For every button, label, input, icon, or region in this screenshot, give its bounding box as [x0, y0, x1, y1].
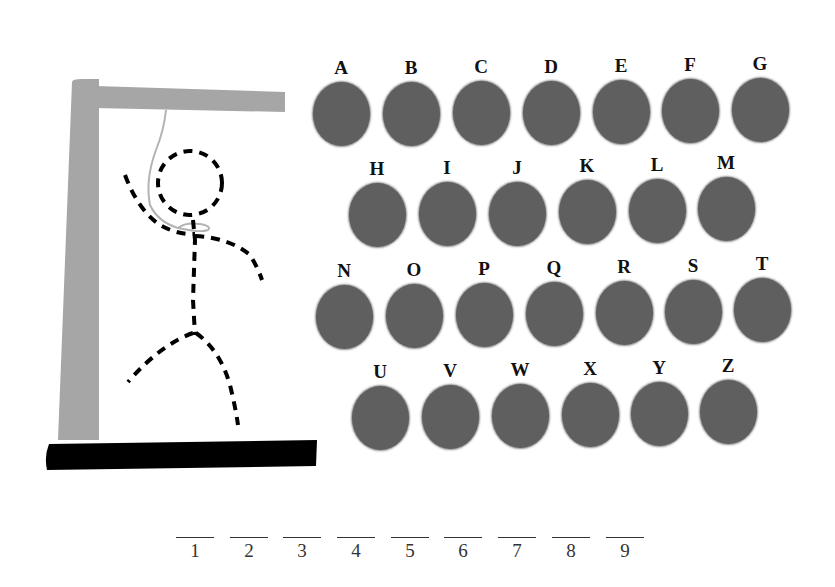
letter-label: H: [347, 159, 407, 181]
letter-label: E: [591, 56, 651, 78]
letter-disc[interactable]: [313, 82, 370, 146]
slot-number: 6: [444, 540, 482, 562]
letter-disc[interactable]: [349, 183, 406, 247]
letter-disc[interactable]: [734, 278, 791, 342]
letter-label: R: [594, 257, 654, 279]
letter-label: O: [384, 260, 444, 282]
letter-button-u[interactable]: U: [350, 362, 410, 450]
figure-body: [193, 220, 195, 335]
letter-button-z[interactable]: Z: [698, 356, 758, 444]
slot-number: 9: [606, 540, 644, 562]
figure-arm-right: [195, 236, 262, 280]
letter-label: L: [627, 155, 687, 177]
word-slot: 9: [606, 537, 644, 562]
word-slot: 4: [337, 537, 375, 562]
letter-label: N: [314, 261, 374, 283]
letter-button-o[interactable]: O: [384, 260, 444, 348]
letter-label: P: [454, 259, 514, 281]
letter-disc[interactable]: [665, 280, 722, 344]
letter-disc[interactable]: [732, 78, 789, 142]
letter-disc[interactable]: [698, 177, 755, 241]
letter-label: F: [660, 55, 720, 77]
letter-label: J: [487, 158, 547, 180]
letter-label: M: [696, 153, 756, 175]
slot-number: 8: [552, 540, 590, 562]
word-slot: 8: [552, 537, 590, 562]
letter-button-k[interactable]: K: [557, 156, 617, 244]
letter-button-j[interactable]: J: [487, 158, 547, 246]
letter-disc[interactable]: [526, 282, 583, 346]
letter-label: X: [560, 359, 620, 381]
letter-button-g[interactable]: G: [730, 54, 790, 142]
letter-disc[interactable]: [562, 383, 619, 447]
letter-disc[interactable]: [631, 382, 688, 446]
slot-underline: [444, 537, 482, 538]
letter-label: A: [311, 58, 371, 80]
letter-disc[interactable]: [456, 283, 513, 347]
letter-button-n[interactable]: N: [314, 261, 374, 349]
letter-button-r[interactable]: R: [594, 257, 654, 345]
letter-button-f[interactable]: F: [660, 55, 720, 143]
letter-disc[interactable]: [453, 81, 510, 145]
letter-label: B: [381, 58, 441, 80]
slot-number: 1: [176, 540, 214, 562]
letter-button-m[interactable]: M: [696, 153, 756, 241]
letter-disc[interactable]: [662, 79, 719, 143]
letter-label: T: [732, 254, 792, 276]
letter-disc[interactable]: [352, 386, 409, 450]
letter-button-i[interactable]: I: [417, 158, 477, 246]
letter-label: I: [417, 158, 477, 180]
letter-button-x[interactable]: X: [560, 359, 620, 447]
slot-underline: [283, 537, 321, 538]
letter-button-c[interactable]: C: [451, 57, 511, 145]
slot-number: 4: [337, 540, 375, 562]
figure-leg-right: [196, 333, 238, 425]
slot-number: 7: [498, 540, 536, 562]
slot-number: 5: [391, 540, 429, 562]
word-slot: 6: [444, 537, 482, 562]
letter-button-q[interactable]: Q: [524, 258, 584, 346]
word-slot: 7: [498, 537, 536, 562]
letter-disc[interactable]: [316, 285, 373, 349]
letter-label: G: [730, 54, 790, 76]
slot-underline: [176, 537, 214, 538]
word-slot: 5: [391, 537, 429, 562]
letter-disc[interactable]: [489, 182, 546, 246]
letter-button-h[interactable]: H: [347, 159, 407, 247]
letter-label: U: [350, 362, 410, 384]
letter-disc[interactable]: [559, 180, 616, 244]
letter-button-v[interactable]: V: [420, 361, 480, 449]
letter-button-d[interactable]: D: [521, 57, 581, 145]
slot-underline: [552, 537, 590, 538]
letter-label: D: [521, 57, 581, 79]
letter-label: S: [663, 256, 723, 278]
slot-underline: [606, 537, 644, 538]
letter-button-p[interactable]: P: [454, 259, 514, 347]
letter-disc[interactable]: [419, 182, 476, 246]
letter-label: C: [451, 57, 511, 79]
letter-disc[interactable]: [386, 284, 443, 348]
letter-disc[interactable]: [593, 80, 650, 144]
gallows-post: [58, 79, 99, 440]
letter-disc[interactable]: [523, 81, 580, 145]
letter-button-s[interactable]: S: [663, 256, 723, 344]
letter-disc[interactable]: [383, 82, 440, 146]
letter-disc[interactable]: [629, 179, 686, 243]
letter-button-t[interactable]: T: [732, 254, 792, 342]
letter-button-b[interactable]: B: [381, 58, 441, 146]
letter-label: Z: [698, 356, 758, 378]
letter-disc[interactable]: [492, 384, 549, 448]
letter-label: W: [490, 360, 550, 382]
gallows-beam: [95, 86, 285, 112]
letter-button-e[interactable]: E: [591, 56, 651, 144]
letter-button-a[interactable]: A: [311, 58, 371, 146]
letter-button-y[interactable]: Y: [629, 358, 689, 446]
slot-underline: [391, 537, 429, 538]
stick-figure: [125, 151, 262, 425]
slot-underline: [337, 537, 375, 538]
letter-disc[interactable]: [596, 281, 653, 345]
letter-button-l[interactable]: L: [627, 155, 687, 243]
letter-disc[interactable]: [700, 380, 757, 444]
letter-button-w[interactable]: W: [490, 360, 550, 448]
letter-disc[interactable]: [422, 385, 479, 449]
